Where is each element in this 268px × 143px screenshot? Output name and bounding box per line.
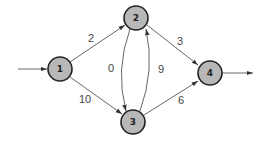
edge-3-2 <box>140 29 149 111</box>
edge-label-1-3: 10 <box>79 93 91 105</box>
edge-label-2-4: 3 <box>177 35 183 47</box>
edge-label-3-4: 6 <box>178 94 184 106</box>
edge-1-3 <box>70 77 122 114</box>
edge-2-3 <box>121 29 130 111</box>
node-4: 4 <box>198 61 222 85</box>
node-2: 2 <box>124 6 148 30</box>
edge-label-1-2: 2 <box>88 32 94 44</box>
edge-2-4 <box>147 25 198 65</box>
graph-diagram: 2 10 0 9 3 6 1 2 3 4 <box>0 0 268 143</box>
node-3: 3 <box>121 110 145 134</box>
node-label-4: 4 <box>207 68 213 78</box>
node-label-2: 2 <box>133 13 139 23</box>
edge-1-2 <box>70 25 125 62</box>
node-1: 1 <box>48 57 72 81</box>
edge-3-4 <box>144 81 198 115</box>
edge-label-2-3: 0 <box>108 62 114 74</box>
node-label-3: 3 <box>130 117 136 127</box>
node-label-1: 1 <box>57 64 63 74</box>
edge-label-3-2: 9 <box>158 63 164 75</box>
